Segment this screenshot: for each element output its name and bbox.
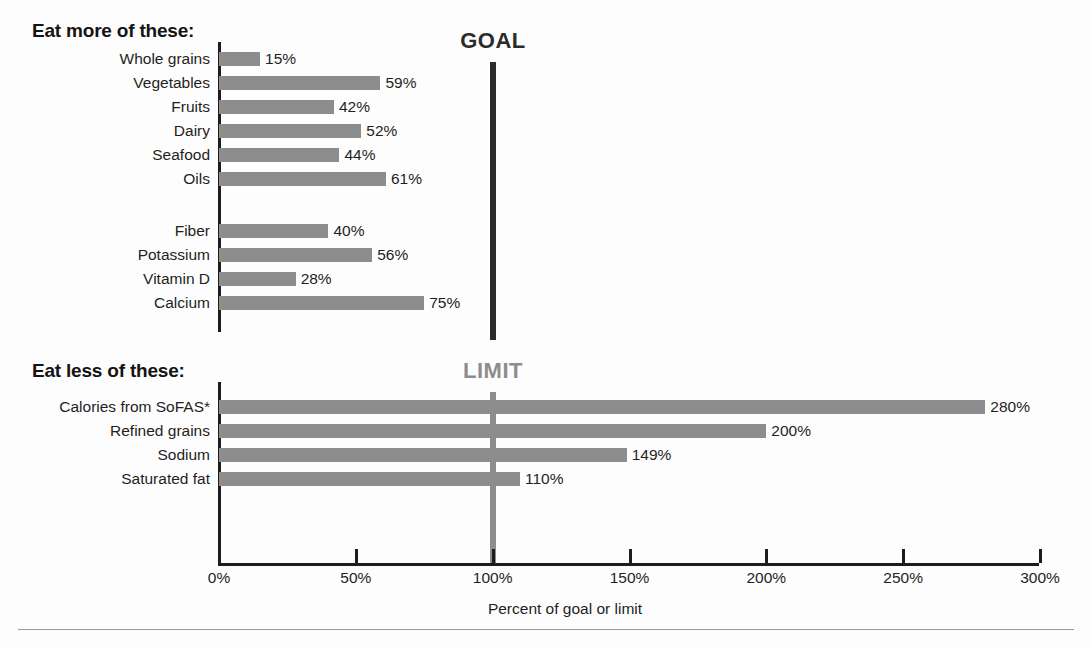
axis-tick (629, 549, 632, 563)
bar-value-label: 200% (771, 424, 811, 438)
bar-row-label: Vegetables (0, 75, 210, 91)
axis-tick (765, 549, 768, 563)
bar (219, 124, 361, 138)
limit-label: LIMIT (413, 358, 573, 384)
section-heading-eat-more: Eat more of these: (32, 20, 194, 42)
section-heading-eat-less: Eat less of these: (32, 360, 185, 382)
bar-value-label: 56% (377, 248, 408, 262)
axis-tick-label: 200% (726, 569, 806, 587)
bar (219, 76, 380, 90)
bar-value-label: 44% (344, 148, 375, 162)
bar (219, 148, 339, 162)
bar-row-label: Vitamin D (0, 271, 210, 287)
bar-row-label: Seafood (0, 147, 210, 163)
x-axis-title: Percent of goal or limit (0, 600, 1090, 618)
bar-row-label: Refined grains (0, 423, 210, 439)
chart-page: Eat more of these: Eat less of these: GO… (0, 0, 1090, 648)
bottom-divider (18, 629, 1074, 630)
bar-value-label: 280% (990, 400, 1030, 414)
bar (219, 224, 328, 238)
axis-tick (902, 549, 905, 563)
axis-tick (492, 549, 495, 563)
bar-value-label: 110% (525, 472, 564, 486)
bar-value-label: 28% (301, 272, 332, 286)
bar-row-label: Calcium (0, 295, 210, 311)
axis-tick (1039, 549, 1042, 563)
axis-tick-label: 100% (453, 569, 533, 587)
bar-row-label: Saturated fat (0, 471, 210, 487)
x-axis-line (218, 563, 1039, 566)
bar (219, 248, 372, 262)
bar-row-label: Sodium (0, 447, 210, 463)
bar-value-label: 42% (339, 100, 370, 114)
bar-value-label: 75% (429, 296, 460, 310)
axis-tick-label: 0% (179, 569, 259, 587)
bar-row-label: Dairy (0, 123, 210, 139)
bar (219, 424, 766, 438)
bar-value-label: 61% (391, 172, 422, 186)
bar (219, 472, 520, 486)
bar (219, 448, 627, 462)
axis-tick-label: 50% (316, 569, 396, 587)
bar-row-label: Fiber (0, 223, 210, 239)
axis-tick (355, 549, 358, 563)
bar-row-label: Fruits (0, 99, 210, 115)
bar (219, 296, 424, 310)
bar-row-label: Oils (0, 171, 210, 187)
axis-tick-label: 250% (863, 569, 943, 587)
bar-row-label: Calories from SoFAS* (0, 399, 210, 415)
bar-row-label: Whole grains (0, 51, 210, 67)
axis-tick-label: 300% (1000, 569, 1080, 587)
bar-value-label: 149% (632, 448, 672, 462)
bar (219, 52, 260, 66)
goal-label: GOAL (413, 28, 573, 54)
bar (219, 400, 985, 414)
bar-value-label: 15% (265, 52, 296, 66)
bar-row-label: Potassium (0, 247, 210, 263)
bar (219, 172, 386, 186)
bar (219, 100, 334, 114)
axis-tick-label: 150% (590, 569, 670, 587)
bar-value-label: 59% (385, 76, 416, 90)
axis-tick (218, 549, 221, 563)
bar (219, 272, 296, 286)
bar-value-label: 40% (333, 224, 364, 238)
bar-value-label: 52% (366, 124, 397, 138)
goal-reference-line (490, 62, 496, 340)
